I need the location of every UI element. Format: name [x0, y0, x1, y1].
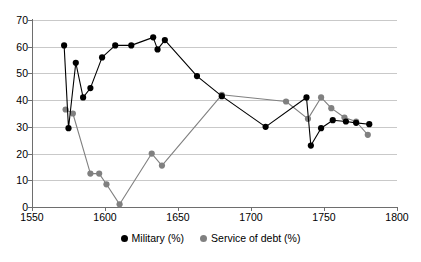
data-point — [353, 118, 359, 124]
data-point — [87, 85, 93, 91]
data-point — [308, 142, 314, 148]
data-point — [70, 110, 76, 116]
legend-item[interactable]: Service of debt (%) — [200, 232, 300, 244]
data-point — [353, 120, 359, 126]
data-point — [87, 171, 93, 177]
y-axis-tick-label: 50 — [2, 68, 28, 78]
x-axis-tick-label: 1550 — [12, 211, 52, 223]
data-point — [219, 92, 225, 98]
x-axis-line — [32, 207, 398, 208]
gridline — [32, 154, 397, 155]
legend-label: Military (%) — [132, 232, 185, 244]
data-point — [62, 106, 68, 112]
data-point — [365, 132, 371, 138]
data-point — [219, 93, 225, 99]
data-point — [162, 37, 168, 43]
series-line — [64, 37, 369, 145]
gridline — [32, 73, 397, 74]
data-point — [305, 116, 311, 122]
legend-item[interactable]: Military (%) — [121, 232, 185, 244]
x-axis-tick-label: 1800 — [377, 211, 417, 223]
x-axis-tick-label: 1700 — [231, 211, 271, 223]
y-axis-tick-label: 30 — [2, 122, 28, 132]
series-line — [66, 95, 368, 205]
y-axis-tick-label: 60 — [2, 42, 28, 52]
x-axis-tick-label: 1750 — [304, 211, 344, 223]
data-point — [343, 118, 349, 124]
chart-container: 010203040506070 155016001650170017501800… — [0, 0, 421, 262]
data-point — [328, 105, 334, 111]
legend-marker-icon — [121, 235, 128, 242]
gridline — [32, 47, 397, 48]
x-axis-tick-label: 1600 — [85, 211, 125, 223]
data-point — [341, 114, 347, 120]
gridline — [32, 127, 397, 128]
gridline — [32, 20, 397, 21]
chart-legend: Military (%)Service of debt (%) — [0, 232, 421, 244]
data-point — [99, 54, 105, 60]
y-axis-tick-label: 20 — [2, 149, 28, 159]
x-axis-tick-label: 1650 — [158, 211, 198, 223]
y-axis-tick-label: 40 — [2, 95, 28, 105]
y-axis-tick-label: 70 — [2, 15, 28, 25]
legend-marker-icon — [200, 235, 207, 242]
data-point — [330, 117, 336, 123]
data-point — [96, 171, 102, 177]
gridline — [32, 100, 397, 101]
data-point — [159, 162, 165, 168]
series-plot — [0, 0, 421, 262]
series-military — [61, 34, 372, 148]
gridline — [32, 180, 397, 181]
data-point — [73, 60, 79, 66]
series-service-of-debt — [62, 92, 370, 208]
data-point — [103, 181, 109, 187]
y-axis-line — [32, 19, 33, 208]
y-axis-tick-label: 10 — [2, 175, 28, 185]
legend-label: Service of debt (%) — [211, 232, 300, 244]
data-point — [150, 34, 156, 40]
